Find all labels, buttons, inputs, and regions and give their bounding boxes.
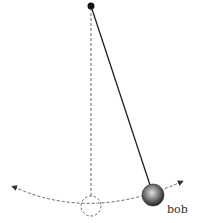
pendulum-diagram bbox=[0, 0, 203, 223]
swing-arc-left-arrow bbox=[14, 187, 40, 196]
pivot-point bbox=[88, 3, 95, 10]
pendulum-string bbox=[91, 6, 150, 185]
bob-label: bob bbox=[167, 203, 188, 216]
rest-position-circle bbox=[81, 196, 101, 216]
pendulum-bob bbox=[142, 184, 164, 206]
